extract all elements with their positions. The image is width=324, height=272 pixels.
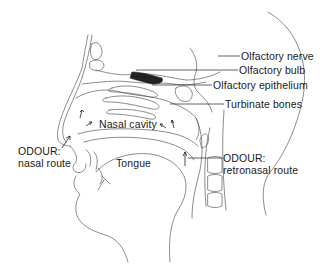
turbinate-upper [108,86,157,97]
sinus-lobe [90,60,104,71]
head-back-outline [263,12,304,215]
sphenoid-sinus [175,86,192,102]
hard-palate [78,129,198,146]
turbinate-middle [103,96,160,109]
front-teeth [86,150,97,170]
vertebra-3 [208,193,222,208]
olfactory-anatomy-diagram [0,0,324,272]
label-olfactory-epithelium: Olfactory epithelium [213,79,308,91]
label-odour-nasal-route: ODOUR: nasal route [18,145,71,169]
arrow-nasal-cavity-2 [86,122,92,126]
face-profile-outline [57,35,88,146]
label-odour-retronasal-line2: retronasal route [223,164,298,176]
arrow-nasal-cavity-1 [80,110,84,118]
label-odour-nasal-line1: ODOUR: [18,145,71,157]
upper-lip [70,146,86,173]
label-odour-retronasal-line1: ODOUR: [223,152,298,164]
lower-lip-chin [74,176,128,262]
label-olfactory-nerve: Olfactory nerve [241,50,314,62]
arrow-nasal-cavity-4 [171,120,174,128]
vertebra-2 [208,175,222,192]
vertebra-1 [208,157,222,174]
spine-front [205,128,210,206]
label-tongue: Tongue [116,157,151,169]
label-turbinate-bones: Turbinate bones [225,98,302,110]
label-olfactory-bulb: Olfactory bulb [239,64,305,76]
pharynx-wall [192,118,202,218]
tongue-outline [96,154,186,262]
arrow-retronasal-route [183,152,187,166]
arrow-nasal-cavity-3 [160,124,166,128]
label-odour-retronasal-route: ODOUR: retronasal route [223,152,298,176]
sublingual-structure [98,168,110,190]
label-nasal-cavity: Nasal cavity [99,118,157,130]
label-odour-nasal-line2: nasal route [18,157,71,169]
face-inner-outline [63,35,92,142]
frontal-sinus [91,42,103,59]
